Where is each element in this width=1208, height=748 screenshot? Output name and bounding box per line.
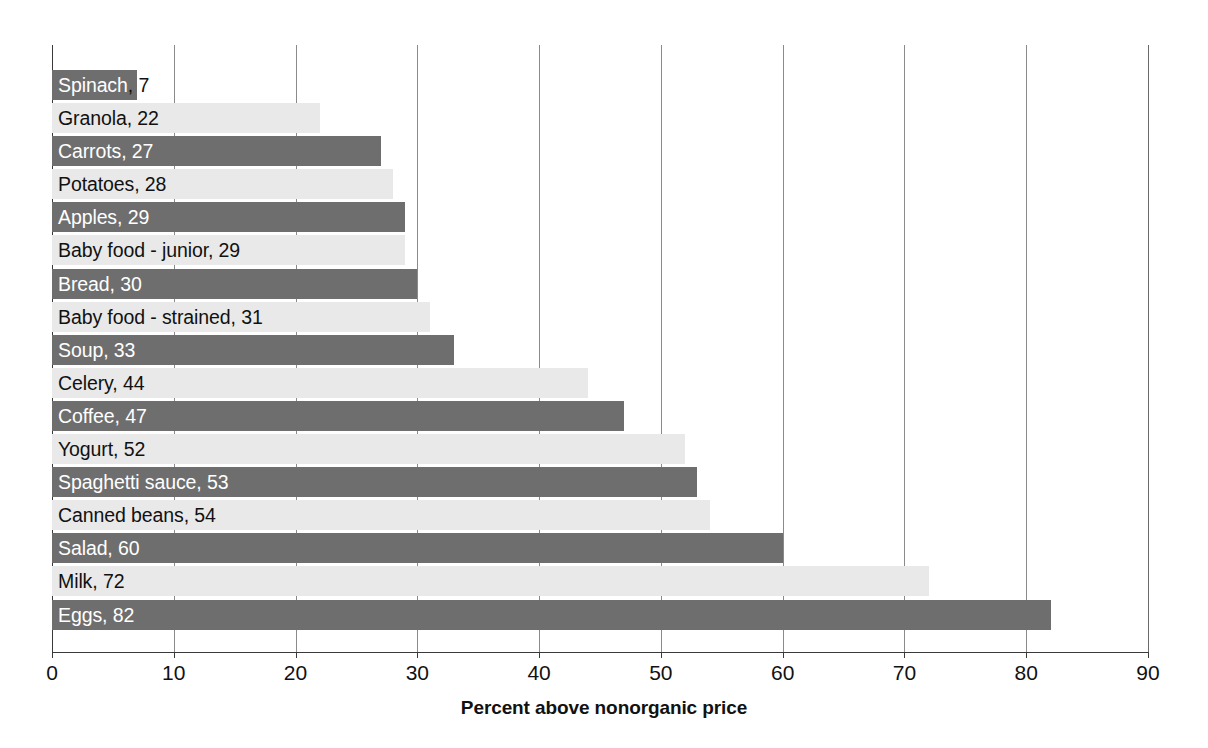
bar-row: Baby food - junior, 29	[52, 235, 1148, 268]
bar-data-label: Granola, 22	[58, 103, 159, 133]
x-tick-70	[904, 652, 905, 658]
gridline-90	[1148, 45, 1149, 653]
bar-yogurt[interactable]	[52, 434, 685, 464]
x-tick-90	[1148, 652, 1149, 658]
bar-data-label: Milk, 72	[58, 566, 124, 596]
bar-data-label: Spinach, 7	[58, 70, 149, 100]
bar-row: Carrots, 27	[52, 136, 1148, 169]
bar-row: Yogurt, 52	[52, 434, 1148, 467]
bar-label-name: Spinach	[58, 74, 128, 96]
x-tick-60	[783, 652, 784, 658]
bar-data-label: Eggs, 82	[58, 600, 134, 630]
bar-salad[interactable]	[52, 533, 783, 563]
x-tick-label-30: 30	[406, 661, 429, 685]
bar-milk[interactable]	[52, 566, 929, 596]
x-axis-line	[52, 652, 1149, 653]
bar-data-label: Coffee, 47	[58, 401, 147, 431]
bar-row: Canned beans, 54	[52, 500, 1148, 533]
x-tick-label-20: 20	[284, 661, 307, 685]
x-tick-label-60: 60	[771, 661, 794, 685]
x-tick-label-10: 10	[162, 661, 185, 685]
bar-data-label: Salad, 60	[58, 533, 140, 563]
bar-row: Celery, 44	[52, 368, 1148, 401]
x-tick-0	[52, 652, 53, 658]
x-tick-20	[296, 652, 297, 658]
x-tick-label-50: 50	[649, 661, 672, 685]
bar-series: Spinach, 7Granola, 22Carrots, 27Potatoes…	[52, 70, 1148, 633]
bar-row: Milk, 72	[52, 566, 1148, 599]
bar-row: Baby food - strained, 31	[52, 302, 1148, 335]
x-tick-label-90: 90	[1136, 661, 1159, 685]
bar-row: Spaghetti sauce, 53	[52, 467, 1148, 500]
bar-data-label: Bread, 30	[58, 269, 142, 299]
x-tick-80	[1026, 652, 1027, 658]
x-tick-40	[539, 652, 540, 658]
bar-row: Apples, 29	[52, 202, 1148, 235]
bar-label-value: , 7	[128, 74, 149, 96]
organic-price-premium-bar-chart: Spinach, 7Granola, 22Carrots, 27Potatoes…	[0, 0, 1208, 748]
x-tick-10	[174, 652, 175, 658]
x-tick-label-70: 70	[893, 661, 916, 685]
bar-data-label: Potatoes, 28	[58, 169, 166, 199]
bar-data-label: Celery, 44	[58, 368, 144, 398]
bar-data-label: Apples, 29	[58, 202, 149, 232]
plot-area: Spinach, 7Granola, 22Carrots, 27Potatoes…	[52, 45, 1148, 633]
x-tick-label-80: 80	[1015, 661, 1038, 685]
bar-data-label: Soup, 33	[58, 335, 135, 365]
bar-row: Bread, 30	[52, 269, 1148, 302]
x-tick-label-0: 0	[46, 661, 58, 685]
bar-row: Granola, 22	[52, 103, 1148, 136]
bar-data-label: Baby food - strained, 31	[58, 302, 263, 332]
bar-row: Salad, 60	[52, 533, 1148, 566]
x-axis-title: Percent above nonorganic price	[0, 697, 1208, 719]
bar-data-label: Canned beans, 54	[58, 500, 216, 530]
bar-eggs[interactable]	[52, 600, 1051, 630]
bar-row: Potatoes, 28	[52, 169, 1148, 202]
bar-row: Spinach, 7	[52, 70, 1148, 103]
bar-row: Coffee, 47	[52, 401, 1148, 434]
x-tick-50	[661, 652, 662, 658]
x-tick-label-40: 40	[527, 661, 550, 685]
bar-data-label: Yogurt, 52	[58, 434, 145, 464]
bar-row: Eggs, 82	[52, 600, 1148, 633]
bar-data-label: Spaghetti sauce, 53	[58, 467, 228, 497]
x-tick-30	[417, 652, 418, 658]
bar-data-label: Carrots, 27	[58, 136, 153, 166]
bar-row: Soup, 33	[52, 335, 1148, 368]
bar-data-label: Baby food - junior, 29	[58, 235, 240, 265]
